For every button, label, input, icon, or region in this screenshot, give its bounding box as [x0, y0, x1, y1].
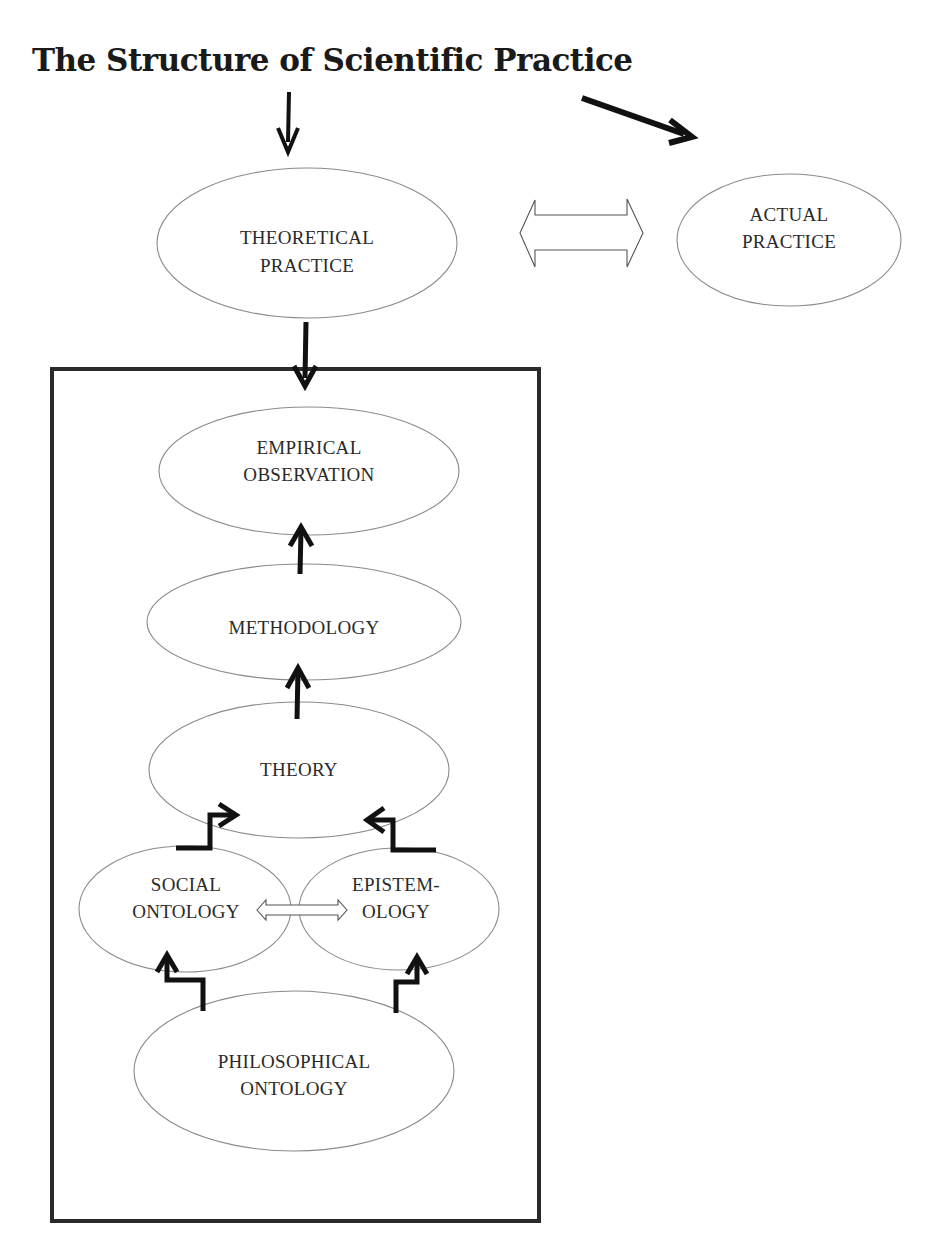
node-label: METHODOLOGY [228, 617, 379, 638]
node-label: PHILOSOPHICAL [218, 1051, 371, 1072]
node-label: PRACTICE [260, 255, 354, 276]
node-label: ONTOLOGY [240, 1078, 348, 1099]
node-methodology: METHODOLOGY [147, 564, 461, 680]
arrow-down-icon [278, 92, 298, 152]
node-label: ACTUAL [750, 204, 829, 225]
node-philosophical-ontology: PHILOSOPHICAL ONTOLOGY [134, 991, 454, 1151]
double-arrow-icon [520, 199, 643, 267]
arrow-down-icon [294, 322, 316, 386]
node-empirical-observation: EMPIRICAL OBSERVATION [159, 407, 459, 535]
node-label: OBSERVATION [243, 464, 374, 485]
arrow-diagonal-icon [582, 98, 692, 143]
node-theoretical-practice: THEORETICAL PRACTICE [157, 168, 457, 318]
node-label: EPISTEM- [352, 874, 440, 895]
node-label: SOCIAL [151, 874, 221, 895]
node-label: THEORY [260, 759, 338, 780]
diagram-canvas: THEORETICAL PRACTICE ACTUAL PRACTICE EMP… [0, 0, 952, 1248]
node-label: OLOGY [362, 901, 430, 922]
node-label: EMPIRICAL [256, 437, 361, 458]
node-label: THEORETICAL [240, 227, 374, 248]
node-theory: THEORY [149, 702, 449, 838]
node-actual-practice: ACTUAL PRACTICE [677, 174, 901, 306]
node-label: PRACTICE [742, 231, 836, 252]
node-label: ONTOLOGY [132, 901, 240, 922]
